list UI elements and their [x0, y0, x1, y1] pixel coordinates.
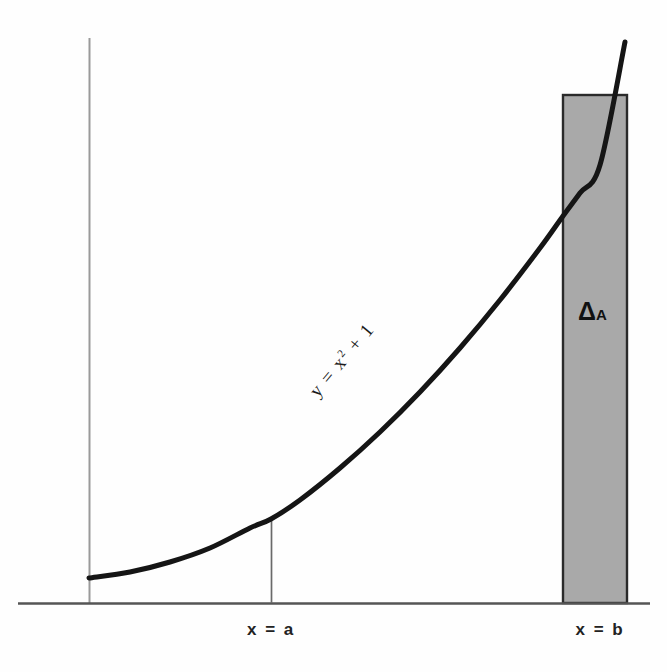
x-tick-label-b: x = b: [576, 620, 625, 640]
x-tick-label-a: x = a: [247, 620, 295, 640]
delta-a-label: ΔA: [578, 297, 607, 326]
delta-symbol: Δ: [578, 297, 596, 325]
function-curve: [89, 42, 625, 578]
shaded-area-rectangle: [563, 95, 627, 603]
delta-a-subject: A: [596, 306, 607, 323]
calculus-area-diagram: [0, 0, 667, 672]
figure-canvas: y = x2 + 1 ΔA x = a x = b: [0, 0, 667, 672]
